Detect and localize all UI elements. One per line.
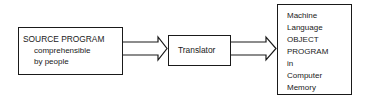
object-line-in: in xyxy=(287,59,293,69)
object-line-memory: Memory xyxy=(287,83,316,93)
object-line-machine: Machine xyxy=(287,11,317,21)
object-line-computer: Computer xyxy=(287,71,322,81)
object-line-program: PROGRAM xyxy=(287,47,328,57)
object-line-language: Language xyxy=(287,23,323,33)
object-line-object: OBJECT xyxy=(287,35,319,45)
object-program-box: Machine Language OBJECT PROGRAM in Compu… xyxy=(277,4,352,95)
